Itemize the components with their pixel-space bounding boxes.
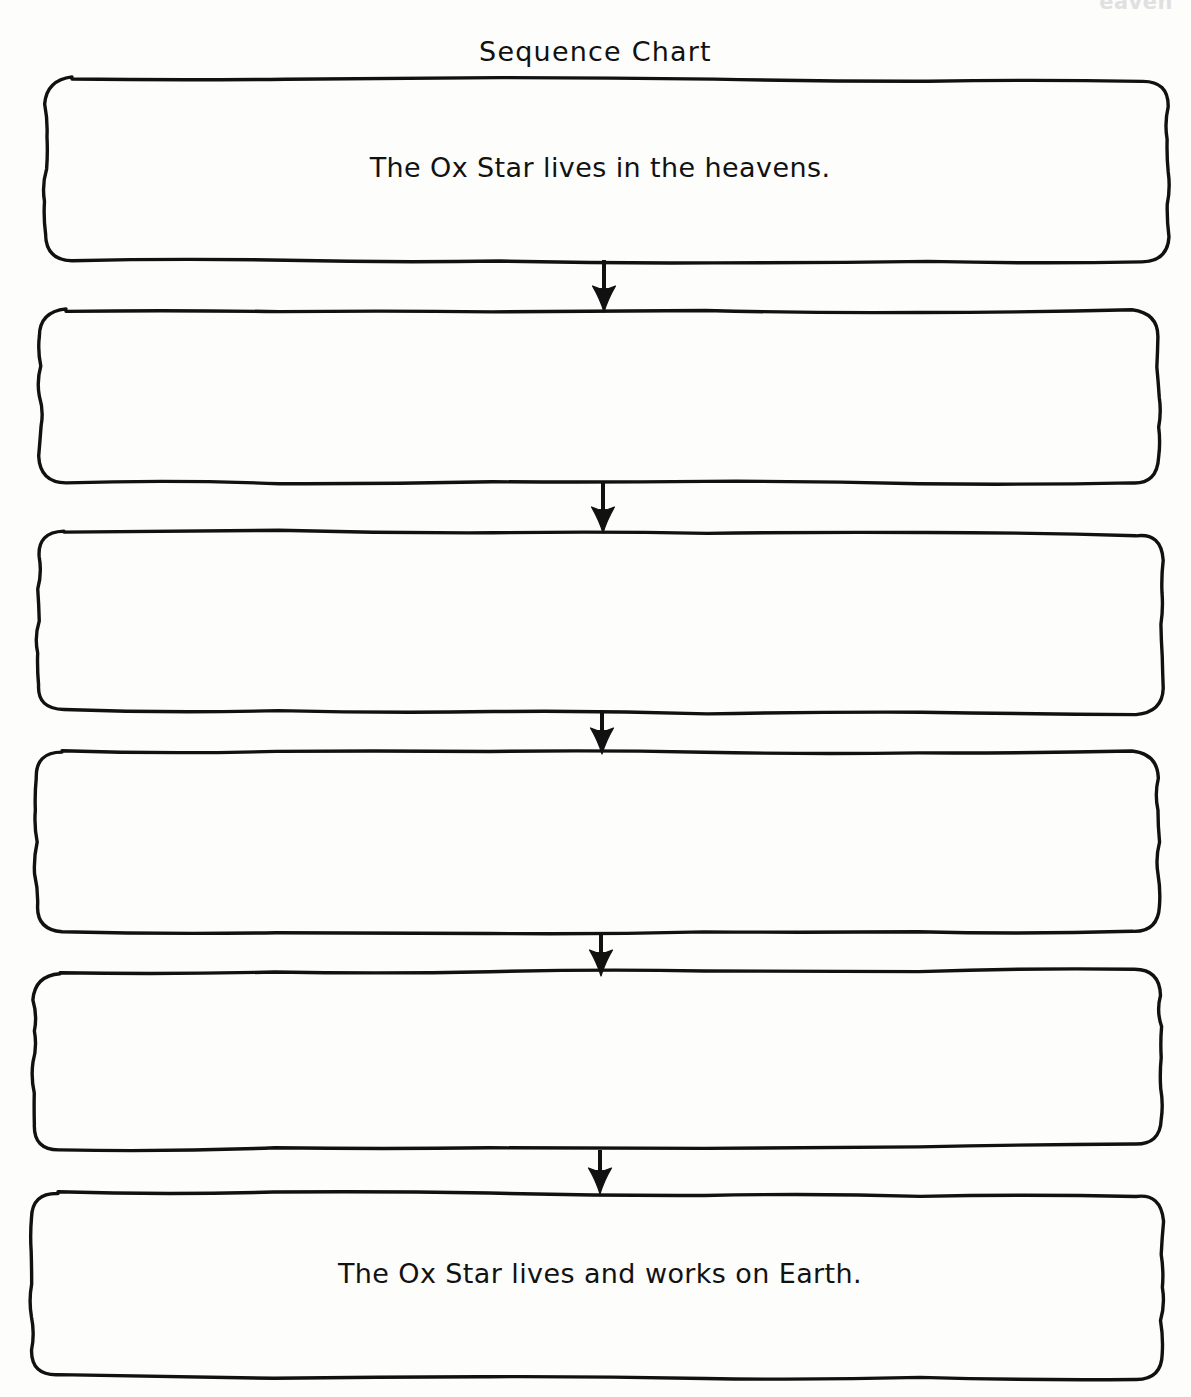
arrow-head [590, 950, 613, 976]
sequence-step-box[interactable] [38, 309, 1160, 484]
flow-arrow-down-icon [589, 1150, 612, 1194]
arrow-head [593, 286, 616, 312]
arrow-head [589, 1168, 612, 1194]
arrow-head [592, 507, 615, 533]
arrows-layer [589, 260, 616, 1194]
sequence-step-box[interactable] [44, 77, 1170, 263]
flow-arrow-down-icon [591, 711, 614, 754]
sequence-step-box[interactable] [34, 751, 1159, 934]
flow-arrow-down-icon [593, 260, 616, 312]
worksheet-page: eaven Sequence Chart The Ox Star lives i… [0, 0, 1191, 1397]
sequence-step-box[interactable] [30, 1192, 1163, 1380]
sequence-step-box[interactable] [32, 969, 1162, 1151]
sequence-step-box[interactable] [36, 530, 1163, 714]
sequence-chart-drawing [0, 0, 1191, 1397]
flow-arrow-down-icon [592, 482, 615, 533]
